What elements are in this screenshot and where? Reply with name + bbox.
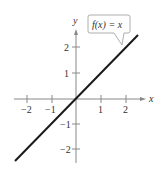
y-axis-arrow-icon bbox=[74, 29, 78, 35]
y-axis-label: y bbox=[72, 15, 78, 26]
y-tick-label: −2 bbox=[60, 144, 71, 155]
y-tick-label: −1 bbox=[60, 119, 71, 130]
x-tick-label: 2 bbox=[123, 104, 128, 115]
x-axis-arrow-icon bbox=[140, 97, 146, 101]
y-tick-label: 1 bbox=[64, 68, 69, 79]
y-tick-label: 2 bbox=[64, 42, 69, 53]
x-tick-label: −1 bbox=[45, 104, 56, 115]
chart: x y −2 −1 1 2 2 1 −1 −2 f(x) = x bbox=[0, 0, 162, 172]
x-tick-label: −2 bbox=[21, 104, 32, 115]
x-tick-label: 1 bbox=[98, 104, 103, 115]
x-axis-label: x bbox=[148, 93, 154, 104]
function-label: f(x) = x bbox=[92, 19, 123, 31]
